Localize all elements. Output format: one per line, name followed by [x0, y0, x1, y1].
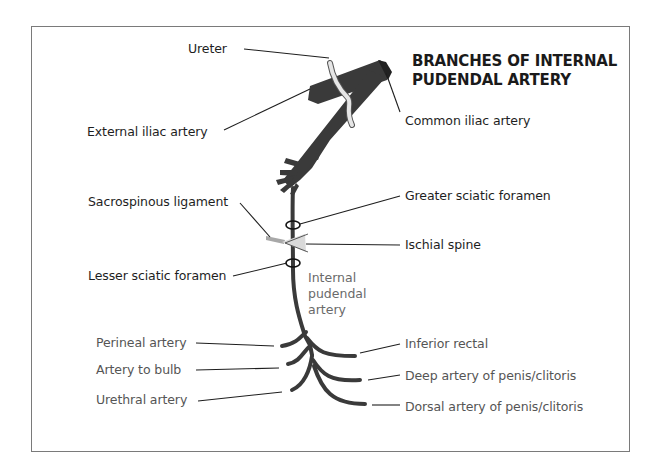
label-perineal-artery: Perineal artery	[96, 335, 187, 350]
title-line-2: PUDENDAL ARTERY	[412, 71, 617, 90]
label-common-iliac-artery: Common iliac artery	[405, 113, 530, 128]
label-external-iliac-artery: External iliac artery	[87, 124, 208, 139]
label-ischial-spine: Ischial spine	[405, 237, 481, 252]
label-inferior-rectal: Inferior rectal	[405, 336, 488, 351]
label-internal-pudendal-artery: Internal pudendal artery	[308, 270, 366, 318]
label-ureter: Ureter	[188, 41, 227, 56]
label-lesser-sciatic-foramen: Lesser sciatic foramen	[88, 268, 226, 283]
label-sacrospinous-ligament: Sacrospinous ligament	[88, 194, 228, 209]
sacrospinous-ligament-shape	[266, 236, 285, 244]
label-urethral-artery: Urethral artery	[96, 392, 187, 407]
label-artery-to-bulb: Artery to bulb	[96, 362, 181, 377]
diagram-title: BRANCHES OF INTERNAL PUDENDAL ARTERY	[412, 52, 617, 90]
label-dorsal-artery: Dorsal artery of penis/clitoris	[405, 399, 583, 414]
title-line-1: BRANCHES OF INTERNAL	[412, 52, 617, 71]
right-branches	[307, 338, 365, 404]
label-greater-sciatic-foramen: Greater sciatic foramen	[405, 188, 551, 203]
label-deep-artery: Deep artery of penis/clitoris	[405, 368, 576, 383]
